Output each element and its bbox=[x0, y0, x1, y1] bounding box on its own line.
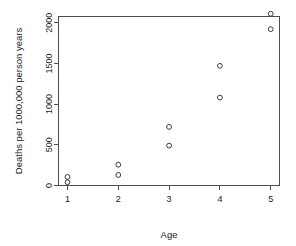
x-axis-title: Age bbox=[161, 229, 178, 240]
x-tick-label: 5 bbox=[268, 194, 273, 204]
y-tick-label: 2000 bbox=[44, 13, 54, 33]
y-axis-title: Deaths per 1000,000 person years bbox=[13, 28, 24, 175]
chart-figure: 0 500 1000 1500 2000 1 bbox=[0, 0, 296, 246]
y-tick-label: 0 bbox=[44, 183, 54, 188]
scatter-plot-svg: 0 500 1000 1500 2000 1 bbox=[0, 0, 296, 246]
x-tick-label: 4 bbox=[217, 194, 222, 204]
y-tick-label: 1500 bbox=[44, 53, 54, 73]
y-tick-label: 1000 bbox=[44, 94, 54, 114]
figure-background bbox=[0, 0, 296, 246]
x-tick-label: 2 bbox=[116, 194, 121, 204]
y-tick-label: 500 bbox=[44, 137, 54, 152]
x-tick-label: 3 bbox=[167, 194, 172, 204]
x-tick-label: 1 bbox=[65, 194, 70, 204]
